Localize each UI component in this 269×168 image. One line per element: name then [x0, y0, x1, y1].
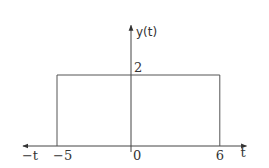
x-tick-labels: −506	[53, 148, 224, 163]
x-tick-label: 6	[216, 148, 224, 163]
x-axis-label: t	[240, 145, 246, 160]
y-tick-labels: 2	[134, 60, 142, 75]
series-layer	[57, 75, 220, 146]
y-axis-label: y(t)	[136, 25, 157, 39]
x-axis-negative-label: −t	[22, 148, 39, 163]
y-tick-label: 2	[134, 60, 142, 75]
x-tick-label: 0	[133, 148, 141, 163]
x-tick-label: −5	[53, 148, 72, 163]
pulse-chart: y(t) t −t −506 2	[0, 0, 269, 168]
pulse-series-line	[57, 75, 220, 146]
